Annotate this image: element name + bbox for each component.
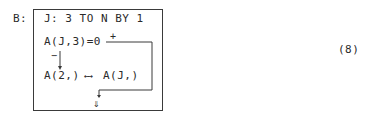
minus-arrowhead-icon: [58, 66, 62, 70]
flow-lines: [0, 0, 369, 115]
plus-branch-line: [99, 42, 152, 90]
return-arrowhead-icon: [97, 95, 101, 98]
